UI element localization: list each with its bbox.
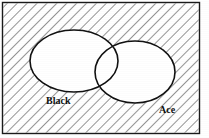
venn-diagram-canvas: Black Ace bbox=[0, 0, 209, 138]
venn-diagram-figure: Black Ace bbox=[0, 0, 209, 138]
set-label-ace: Ace bbox=[159, 104, 176, 115]
set-label-black: Black bbox=[46, 95, 71, 106]
